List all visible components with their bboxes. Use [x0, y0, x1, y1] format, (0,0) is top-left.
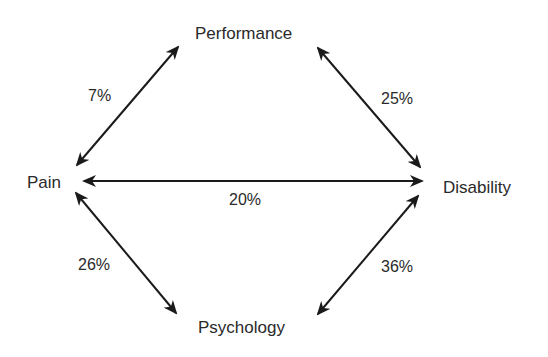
- label-pain-disability: 20%: [229, 191, 261, 209]
- label-pain-performance: 7%: [88, 87, 111, 105]
- label-disability-psychology: 36%: [381, 258, 413, 276]
- node-psychology: Psychology: [198, 318, 285, 338]
- arrow-pain-performance: [77, 47, 178, 165]
- node-disability: Disability: [443, 178, 511, 198]
- node-performance: Performance: [195, 24, 292, 44]
- arrow-disability-psychology: [318, 196, 418, 314]
- arrow-pain-psychology: [76, 193, 176, 313]
- label-performance-disability: 25%: [381, 90, 413, 108]
- node-pain: Pain: [27, 173, 61, 193]
- label-pain-psychology: 26%: [78, 256, 110, 274]
